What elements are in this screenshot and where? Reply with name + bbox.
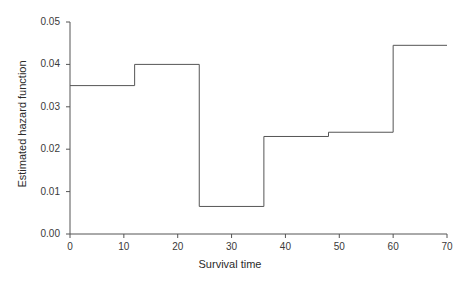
x-tick-label: 30	[217, 242, 247, 252]
chart-screenshot: 0.000.010.020.030.040.05 010203040506070…	[0, 0, 469, 282]
x-axis-title: Survival time	[140, 258, 320, 270]
x-tick-label: 20	[163, 242, 193, 252]
y-tick-label: 0.05	[26, 17, 60, 27]
x-tick-label: 50	[324, 242, 354, 252]
x-tick-label: 10	[109, 242, 139, 252]
x-tick-label: 70	[432, 242, 462, 252]
x-tick-label: 60	[378, 242, 408, 252]
axis-ticks	[66, 22, 447, 238]
y-tick-label: 0.04	[26, 59, 60, 69]
step-curve-hazard	[70, 45, 447, 206]
axis-lines	[70, 22, 447, 234]
y-tick-label: 0.02	[26, 144, 60, 154]
x-tick-label: 0	[55, 242, 85, 252]
chart-canvas	[0, 0, 469, 282]
x-tick-label: 40	[270, 242, 300, 252]
y-tick-label: 0.03	[26, 102, 60, 112]
y-axis-title: Estimated hazard function	[16, 29, 28, 219]
y-tick-label: 0.00	[26, 229, 60, 239]
y-tick-label: 0.01	[26, 187, 60, 197]
